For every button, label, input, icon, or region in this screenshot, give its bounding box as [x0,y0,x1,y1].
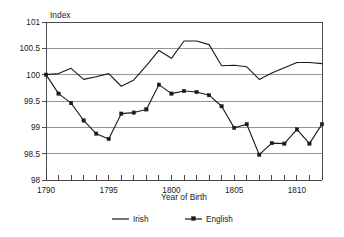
y-tick-label: 99 [31,123,41,132]
y-tick-label: 101 [26,18,40,27]
y-tick-label: 100 [26,71,40,80]
data-point-marker [320,122,323,125]
x-tick-label: 1795 [100,186,119,195]
legend-label: English [206,215,233,224]
y-axis-title: Index [50,10,71,20]
data-point-marker [258,153,261,156]
data-point-marker [69,101,72,104]
data-point-marker [245,122,248,125]
data-point-marker [145,108,148,111]
data-point-marker [295,128,298,131]
data-point-marker [107,137,110,140]
data-point-marker [308,142,311,145]
data-point-marker [94,132,97,135]
data-point-marker [195,90,198,93]
x-tick-label: 1790 [37,186,56,195]
legend-swatch-marker [192,217,196,221]
data-point-marker [132,111,135,114]
chart-figure: Index 9898.59999.5100100.5101 1790179518… [0,0,344,237]
data-point-marker [270,141,273,144]
data-point-marker [120,112,123,115]
y-tick-label: 98.5 [24,150,40,159]
data-point-marker [57,92,60,95]
data-point-marker [232,126,235,129]
data-point-marker [170,92,173,95]
line-chart: Index 9898.59999.5100100.5101 1790179518… [0,0,344,237]
x-tick-label: 1810 [288,186,307,195]
data-point-marker [157,83,160,86]
legend-label: Irish [133,215,149,224]
data-point-marker [44,73,47,76]
y-tick-label: 98 [31,176,41,185]
x-tick-label: 1805 [225,186,244,195]
data-point-marker [220,105,223,108]
y-tick-label: 100.5 [20,44,41,53]
data-point-marker [283,142,286,145]
data-point-marker [82,119,85,122]
y-tick-label: 99.5 [24,97,40,106]
data-point-marker [207,94,210,97]
x-axis-title: Year of Birth [161,192,207,202]
data-point-marker [182,89,185,92]
